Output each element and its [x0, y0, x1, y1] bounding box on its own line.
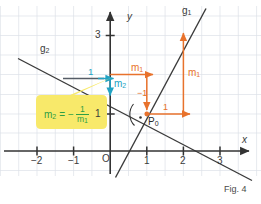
coordinate-plot — [0, 0, 261, 204]
callout-denominator-text: m — [77, 114, 84, 124]
x-tick-label--1: −1 — [68, 156, 79, 166]
point-label-p0: P0 — [148, 117, 159, 127]
x-tick-label--2: −2 — [31, 156, 42, 166]
vector-label-slope-rise-g1: m1 — [188, 68, 200, 78]
callout-numerator: 1 — [79, 105, 86, 114]
vector-label-slope-drop-g1: −1 — [137, 89, 147, 98]
callout-fraction: 1 m1 — [76, 105, 89, 124]
grid-horizontal — [0, 16, 261, 171]
line-label-g2-sub: 2 — [46, 47, 50, 54]
point-label-p0-sub: 0 — [155, 120, 159, 127]
x-tick-label-2: 2 — [180, 156, 186, 166]
x-tick-label-3: 3 — [217, 156, 223, 166]
callout-lhs: m2 — [44, 109, 56, 120]
right-angle-arc — [130, 104, 135, 126]
callout-denominator: m1 — [76, 114, 89, 124]
x-tick-label-1: 1 — [144, 156, 150, 166]
point-label-p0-text: P — [148, 116, 155, 127]
callout-equals: = — [59, 109, 65, 120]
line-label-g2: g2 — [40, 44, 49, 54]
line-label-g1-sub: 1 — [188, 9, 192, 16]
line-g1 — [116, 9, 207, 178]
y-tick-label-1: 1 — [95, 109, 101, 119]
vector-label-slope-run-top-g1-sub: 1 — [139, 66, 143, 73]
callout-formula: m2 = − 1 m1 — [44, 105, 89, 124]
y-tick-label-3: 3 — [95, 30, 101, 40]
vector-label-slope-rise-g1-sub: 1 — [196, 71, 200, 78]
right-angle-dot — [139, 116, 142, 119]
vector-label-slope-rise-g2-sub: 2 — [122, 82, 126, 89]
vector-label-slope-run-top-g1: m1 — [131, 63, 143, 73]
figure-container: y x O −2 −1 1 2 3 1 3 g1 g2 P0 1 m1 m1 −… — [0, 0, 261, 204]
origin-label: O — [102, 154, 110, 164]
callout-lhs-sub: 2 — [52, 113, 56, 120]
y-axis-label: y — [127, 12, 132, 22]
figure-caption: Fig. 4 — [224, 185, 247, 194]
vector-label-slope-run-g1: 1 — [163, 103, 168, 112]
vector-label-slope-rise-g2: m2 — [114, 79, 126, 89]
line-label-g1: g1 — [182, 6, 191, 16]
callout-minus: − — [68, 109, 74, 120]
vector-label-slope-run-g2: 1 — [88, 67, 93, 77]
x-axis-label: x — [242, 135, 247, 145]
callout-denominator-sub: 1 — [84, 117, 88, 124]
